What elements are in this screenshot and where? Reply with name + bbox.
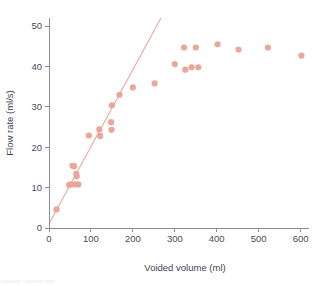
data-point <box>109 102 115 108</box>
data-point <box>86 132 92 138</box>
data-point <box>71 163 77 169</box>
data-point <box>298 52 304 58</box>
y-axis-title: Flow rate (ml/s) <box>4 90 15 155</box>
data-point <box>193 44 199 50</box>
scatter-plot: 010203040500100200300400500600Voided vol… <box>0 0 319 286</box>
data-point <box>188 64 194 70</box>
y-tick-label: 0 <box>37 222 42 233</box>
data-point <box>116 92 122 98</box>
x-tick-label: 0 <box>46 233 51 244</box>
y-tick-label: 10 <box>31 182 42 193</box>
data-point <box>96 126 102 132</box>
data-point <box>130 84 136 90</box>
flow-rate-scatter-figure: 010203040500100200300400500600Voided vol… <box>0 0 319 286</box>
regression-line <box>50 18 161 222</box>
data-point <box>235 46 241 52</box>
x-tick-label: 200 <box>125 233 141 244</box>
data-point <box>53 206 59 212</box>
axis-labels-group: 010203040500100200300400500600Voided vol… <box>4 20 309 273</box>
data-point <box>195 64 201 70</box>
data-point <box>265 44 271 50</box>
data-point <box>108 127 114 133</box>
x-tick-label: 600 <box>293 233 309 244</box>
data-points-group <box>53 41 304 212</box>
data-point <box>181 44 187 50</box>
data-point <box>152 80 158 86</box>
data-point <box>214 41 220 47</box>
y-tick-label: 50 <box>31 20 42 31</box>
x-tick-label: 300 <box>167 233 183 244</box>
x-axis-title: Voided volume (ml) <box>144 262 225 273</box>
x-tick-label: 500 <box>251 233 267 244</box>
y-tick-label: 20 <box>31 142 42 153</box>
data-point <box>108 119 114 125</box>
regression-line-group <box>50 18 161 222</box>
y-tick-label: 30 <box>31 101 42 112</box>
data-point <box>74 173 80 179</box>
x-tick-label: 400 <box>209 233 225 244</box>
data-point <box>97 133 103 139</box>
data-point <box>172 61 178 67</box>
x-tick-label: 100 <box>83 233 99 244</box>
figure-caption: clipped caption text <box>0 277 319 286</box>
y-tick-label: 40 <box>31 61 42 72</box>
data-point <box>182 67 188 73</box>
data-point <box>75 181 81 187</box>
